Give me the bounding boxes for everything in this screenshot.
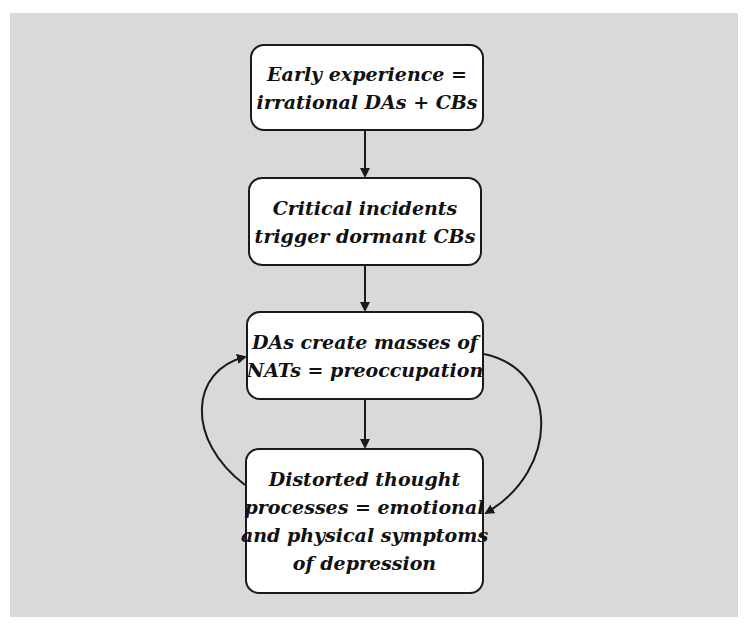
node-text-line: processes = emotional <box>241 493 488 521</box>
node-text-line: NATs = preoccupation <box>247 356 483 384</box>
node-text-line: of depression <box>241 549 488 577</box>
node-early-experience: Early experience = irrational DAs + CBs <box>250 44 484 131</box>
node-text-line: and physical symptoms <box>241 521 488 549</box>
node-das-create-nats: DAs create masses of NATs = preoccupatio… <box>246 311 484 400</box>
node-text-line: Critical incidents <box>255 194 476 222</box>
node-text-line: Early experience = <box>256 60 477 88</box>
node-text-line: irrational DAs + CBs <box>256 88 477 116</box>
node-critical-incidents: Critical incidents trigger dormant CBs <box>248 177 482 266</box>
loop-arrow-right <box>484 354 541 513</box>
node-text-line: Distorted thought <box>241 465 488 493</box>
node-text-line: trigger dormant CBs <box>255 222 476 250</box>
node-text-line: DAs create masses of <box>247 328 483 356</box>
node-distorted-thought: Distorted thought processes = emotional … <box>245 448 484 594</box>
loop-arrow-left <box>202 357 245 485</box>
